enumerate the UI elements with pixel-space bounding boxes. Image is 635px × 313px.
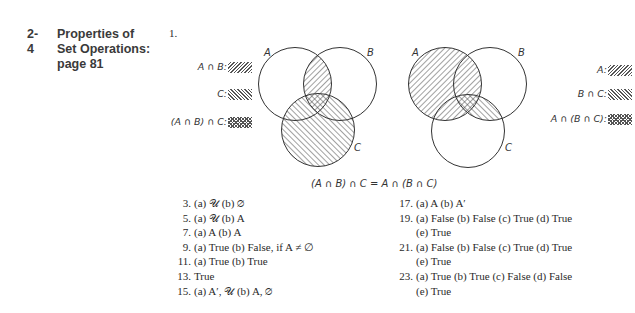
circle-label-a: A (263, 47, 271, 58)
answer-number: 3. (172, 196, 191, 211)
legend-label: C: (217, 88, 227, 99)
answer-text: (a) True (b) False, if A ≠ ∅ (194, 241, 314, 253)
circle-label-a: A (411, 47, 419, 58)
legend-label: (A ∩ B) ∩ C: (171, 116, 227, 127)
answer-text: (a) False (b) False (c) True (d) True (416, 240, 572, 255)
back-hatch-swatch (228, 89, 252, 100)
answer-text: (a) A′, 𝒰 (b) A, ∅ (194, 285, 272, 297)
answer-item: 13.True (172, 269, 314, 284)
answer-text: (a) True (b) True (194, 255, 268, 267)
answer-text: (a) A (b) A′ (416, 197, 466, 209)
circle-label-c: C (354, 142, 361, 153)
legend-item: B ∩ C: (540, 88, 632, 100)
legend-item: (A ∩ B) ∩ C: (150, 116, 252, 128)
answer-number: 15. (172, 284, 191, 299)
answer-number: 21. (394, 240, 413, 255)
legend-item: C: (180, 88, 252, 100)
answer-item: 17.(a) A (b) A′ (394, 196, 572, 211)
legend-label: B ∩ C: (578, 88, 607, 99)
answer-text-continued: (e) True (416, 225, 572, 240)
cross-hatch-swatch (228, 117, 252, 128)
answer-text: (a) False (b) False (c) True (d) True (416, 211, 572, 226)
legend-label: A ∩ B: (198, 61, 227, 72)
answer-number: 17. (394, 196, 413, 211)
associative-equation: (A ∩ B) ∩ C = A ∩ (B ∩ C) (311, 178, 437, 189)
answer-number: 9. (172, 240, 191, 255)
answer-text: (a) 𝒰 (b) A (194, 212, 245, 224)
left-venn-diagram: A B C (259, 47, 377, 167)
answers-right-column: 17.(a) A (b) A′ 19.(a) False (b) False (… (394, 196, 572, 298)
answer-number: 13. (172, 269, 191, 284)
answer-text: (a) A (b) A (194, 226, 241, 238)
answer-text: (a) True (b) True (c) False (d) False (416, 269, 572, 284)
answer-text: True (194, 270, 214, 282)
answer-text-continued: (e) True (416, 284, 572, 299)
answer-number: 5. (172, 211, 191, 226)
legend-item: A ∩ (B ∩ C): (520, 113, 632, 125)
answer-item: 7.(a) A (b) A (172, 225, 314, 240)
answer-item: 5.(a) 𝒰 (b) A (172, 211, 314, 226)
answer-item: 9.(a) True (b) False, if A ≠ ∅ (172, 240, 314, 255)
forward-hatch-swatch (228, 62, 252, 73)
answer-number: 11. (172, 254, 191, 269)
back-hatch-swatch (608, 89, 632, 100)
legend-label: A ∩ (B ∩ C): (551, 113, 607, 124)
answer-text: (a) 𝒰 (b) ∅ (194, 197, 244, 209)
answer-item: 15.(a) A′, 𝒰 (b) A, ∅ (172, 284, 314, 299)
forward-hatch-swatch (608, 65, 632, 76)
answer-item: 19.(a) False (b) False (c) True (d) True… (394, 211, 572, 240)
answer-item: 11.(a) True (b) True (172, 254, 314, 269)
legend-item: A: (540, 64, 632, 76)
circle-label-c: C (505, 142, 512, 153)
legend-item: A ∩ B: (180, 61, 252, 73)
circle-label-b: B (518, 47, 525, 58)
right-venn-diagram: A B C (409, 47, 527, 168)
answer-item: 21.(a) False (b) False (c) True (d) True… (394, 240, 572, 269)
answer-text-continued: (e) True (416, 254, 572, 269)
answer-number: 7. (172, 225, 191, 240)
answer-number: 23. (394, 269, 413, 284)
circle-label-b: B (367, 47, 374, 58)
cross-hatch-swatch (608, 114, 632, 125)
answer-number: 19. (394, 211, 413, 226)
answer-item: 3.(a) 𝒰 (b) ∅ (172, 196, 314, 211)
answers-left-column: 3.(a) 𝒰 (b) ∅ 5.(a) 𝒰 (b) A 7.(a) A (b) … (172, 196, 314, 298)
answer-item: 23.(a) True (b) True (c) False (d) False… (394, 269, 572, 298)
legend-label: A: (597, 64, 607, 75)
